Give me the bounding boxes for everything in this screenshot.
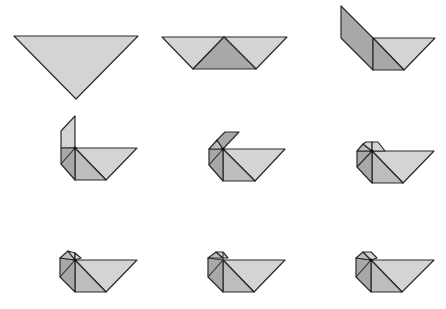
step-8-figure <box>208 252 285 292</box>
folding-diagram <box>0 0 446 309</box>
step-9-figure <box>356 252 434 292</box>
step-5-figure <box>209 132 285 181</box>
step-6-figure <box>357 142 434 183</box>
step-4-figure <box>61 116 137 180</box>
diagram-canvas <box>0 0 446 309</box>
step-7-figure <box>60 251 137 292</box>
step-3-figure <box>341 6 435 70</box>
step-2-figure <box>162 37 287 69</box>
step-1-figure <box>14 36 138 99</box>
